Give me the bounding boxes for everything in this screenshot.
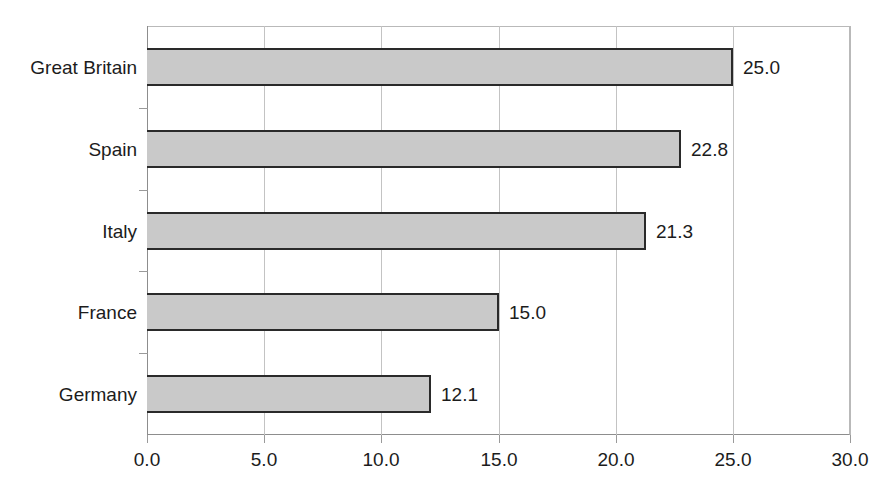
bar	[147, 212, 646, 250]
x-axis-tick-label: 25.0	[715, 450, 752, 469]
category-label: Italy	[0, 222, 137, 241]
bar-value-label: 15.0	[509, 303, 546, 322]
x-axis-tick-label: 20.0	[598, 450, 635, 469]
y-axis-tick	[139, 353, 148, 354]
x-axis-tick-label: 15.0	[481, 450, 518, 469]
bar	[147, 293, 499, 331]
y-axis-tick	[139, 108, 148, 109]
x-axis-tick	[616, 435, 617, 443]
category-label: France	[0, 303, 137, 322]
x-axis-tick	[850, 435, 851, 443]
bar	[147, 48, 733, 86]
bar	[147, 375, 431, 413]
x-axis-tick	[381, 435, 382, 443]
bar-chart: 0.05.010.015.020.025.030.025.0Great Brit…	[0, 0, 893, 502]
category-label: Great Britain	[0, 58, 137, 77]
category-label: Germany	[0, 385, 137, 404]
bar-value-label: 12.1	[441, 385, 478, 404]
x-axis-tick	[264, 435, 265, 443]
gridline-x	[733, 26, 734, 435]
y-axis-tick	[139, 271, 148, 272]
x-axis-tick-label: 30.0	[832, 450, 869, 469]
bar-value-label: 22.8	[691, 140, 728, 159]
category-label: Spain	[0, 140, 137, 159]
x-axis-tick	[733, 435, 734, 443]
bar	[147, 130, 681, 168]
x-axis-tick-label: 5.0	[251, 450, 277, 469]
x-axis-tick-label: 10.0	[363, 450, 400, 469]
gridline-x	[850, 26, 851, 435]
x-axis-tick	[147, 435, 148, 443]
x-axis-tick	[499, 435, 500, 443]
x-axis-tick-label: 0.0	[134, 450, 160, 469]
bar-value-label: 21.3	[656, 222, 693, 241]
y-axis-tick	[139, 190, 148, 191]
bar-value-label: 25.0	[743, 58, 780, 77]
